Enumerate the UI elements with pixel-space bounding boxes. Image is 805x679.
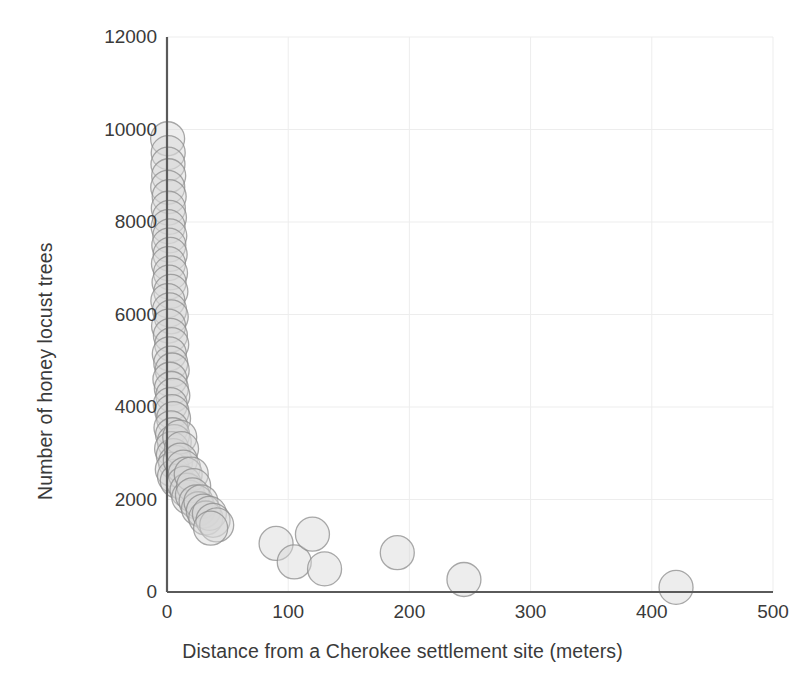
chart-figure: 020004000600080001000012000 010020030040…	[0, 0, 805, 679]
y-axis-title: Number of honey locust trees	[34, 242, 57, 500]
y-tick-label: 10000	[85, 119, 157, 141]
y-tick-label: 8000	[85, 211, 157, 233]
y-tick-label: 0	[85, 581, 157, 603]
x-tick-label: 0	[137, 601, 197, 623]
y-tick-label: 12000	[85, 26, 157, 48]
data-point	[380, 536, 414, 570]
y-tick-label: 2000	[85, 489, 157, 511]
x-axis-title: Distance from a Cherokee settlement site…	[0, 640, 805, 663]
data-point	[295, 517, 329, 551]
x-tick-label: 500	[743, 601, 803, 623]
y-tick-label: 4000	[85, 396, 157, 418]
y-tick-label: 6000	[85, 304, 157, 326]
x-tick-label: 400	[622, 601, 682, 623]
data-point	[659, 570, 693, 604]
data-points-group	[151, 122, 693, 605]
x-tick-label: 200	[379, 601, 439, 623]
gridlines-group	[167, 37, 773, 592]
data-point	[194, 511, 228, 545]
x-tick-label: 100	[258, 601, 318, 623]
data-point	[308, 552, 342, 586]
scatter-plot-canvas	[0, 0, 805, 679]
x-tick-label: 300	[501, 601, 561, 623]
